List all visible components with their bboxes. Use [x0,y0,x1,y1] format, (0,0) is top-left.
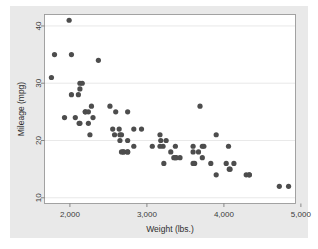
data-point[interactable] [86,121,91,126]
data-point[interactable] [90,115,95,120]
data-point[interactable] [107,104,112,109]
data-point[interactable] [80,81,85,86]
data-point[interactable] [67,18,72,23]
data-point[interactable] [226,144,231,149]
data-point[interactable] [69,52,74,57]
x-axis-title: Weight (lbs.) [146,224,194,234]
data-point[interactable] [224,161,229,166]
data-point[interactable] [157,132,162,137]
data-point[interactable] [200,155,205,160]
data-point[interactable] [161,161,166,166]
data-point[interactable] [117,132,122,137]
scatter-plot[interactable]: 10203040 2,0003,0004,0005,000 Mileage (m… [0,0,318,249]
plot-area-background [45,15,296,204]
data-point[interactable] [86,109,91,114]
x-axis-ticks: 2,0003,0004,0005,000 [60,204,312,219]
figure-root: 10203040 2,0003,0004,0005,000 Mileage (m… [0,0,318,249]
data-point[interactable] [62,115,67,120]
data-point[interactable] [157,144,162,149]
data-point[interactable] [125,109,130,114]
data-point[interactable] [173,144,178,149]
data-point[interactable] [112,132,117,137]
data-point[interactable] [125,149,130,154]
data-point[interactable] [73,115,78,120]
data-point[interactable] [214,172,219,177]
x-tick-label: 4,000 [214,210,235,219]
x-tick-label: 3,000 [137,210,158,219]
x-tick-label: 2,000 [60,210,81,219]
y-axis-ticks: 10203040 [34,21,45,202]
data-point[interactable] [77,86,82,91]
data-point[interactable] [69,92,74,97]
data-point[interactable] [247,172,252,177]
data-point[interactable] [196,149,201,154]
data-point[interactable] [117,138,122,143]
data-point[interactable] [150,144,155,149]
data-point[interactable] [174,155,179,160]
data-point[interactable] [113,109,118,114]
y-tick-label: 20 [34,136,43,145]
data-point[interactable] [52,52,57,57]
data-point[interactable] [110,126,115,131]
y-tick-label: 10 [34,193,43,202]
data-point[interactable] [87,132,92,137]
data-point[interactable] [200,144,205,149]
data-point[interactable] [89,104,94,109]
data-point[interactable] [49,75,54,80]
data-point[interactable] [119,149,124,154]
data-point[interactable] [76,92,81,97]
data-point[interactable] [139,126,144,131]
data-point[interactable] [125,138,130,143]
data-point[interactable] [158,138,163,143]
data-point[interactable] [231,161,236,166]
x-tick-label: 5,000 [291,210,312,219]
data-point[interactable] [131,126,136,131]
y-tick-label: 40 [34,21,43,30]
data-point[interactable] [277,184,282,189]
data-point[interactable] [214,132,219,137]
data-point[interactable] [164,138,169,143]
data-point[interactable] [131,144,136,149]
y-axis-title: Mileage (mpg) [16,82,26,136]
data-point[interactable] [117,126,122,131]
data-point[interactable] [191,144,196,149]
data-point[interactable] [191,149,196,154]
data-point[interactable] [77,121,82,126]
data-point[interactable] [168,149,173,154]
data-point[interactable] [191,161,196,166]
data-point[interactable] [286,184,291,189]
data-point[interactable] [208,161,213,166]
data-point[interactable] [227,167,232,172]
data-point[interactable] [96,58,101,63]
y-tick-label: 30 [34,78,43,87]
data-point[interactable] [197,104,202,109]
